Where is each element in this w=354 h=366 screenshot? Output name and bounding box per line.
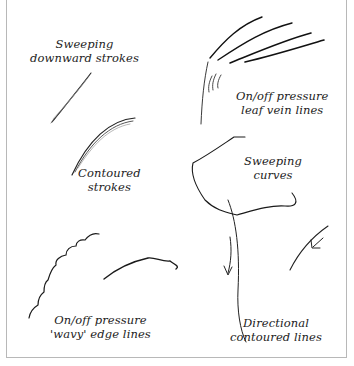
sweeping-downward-strokes	[51, 73, 91, 123]
label-leaf-vein-lines: On/off pressure leaf vein lines	[236, 89, 328, 117]
label-sweeping-downward-strokes: Sweeping downward strokes	[30, 37, 139, 65]
label-line: curves	[244, 168, 302, 182]
label-line: Sweeping	[30, 37, 139, 51]
label-line: 'wavy' edge lines	[50, 327, 151, 341]
label-line: leaf vein lines	[236, 103, 328, 117]
label-sweeping-curves: Sweeping curves	[244, 154, 302, 182]
label-line: On/off pressure	[236, 89, 328, 103]
label-line: Contoured	[78, 166, 141, 180]
label-line: Directional	[230, 316, 322, 330]
label-directional-contoured-lines: Directional contoured lines	[230, 316, 322, 344]
wavy-edge-strokes	[29, 233, 177, 318]
label-line: contoured lines	[230, 330, 322, 344]
label-line: Sweeping	[244, 154, 302, 168]
label-wavy-edge-lines: On/off pressure 'wavy' edge lines	[50, 313, 151, 341]
label-line: downward strokes	[30, 51, 139, 65]
label-contoured-strokes: Contoured strokes	[78, 166, 141, 194]
label-line: strokes	[78, 180, 141, 194]
label-line: On/off pressure	[50, 313, 151, 327]
